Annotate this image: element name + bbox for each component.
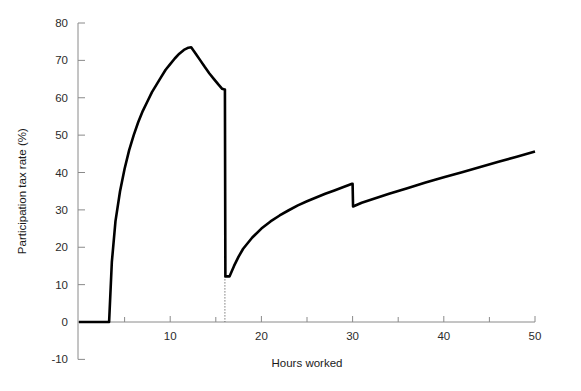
- y-tick-label: 50: [55, 129, 68, 141]
- x-tick-label: 30: [346, 330, 359, 342]
- y-tick-label: 0: [62, 316, 68, 328]
- x-axis-ticks: 1020304050: [125, 316, 542, 342]
- y-tick-label: -10: [51, 353, 68, 365]
- y-tick-label: 40: [55, 167, 68, 179]
- x-tick-label: 10: [164, 330, 177, 342]
- x-tick-label: 20: [255, 330, 268, 342]
- chart-container: -1001020304050607080 1020304050 Particip…: [0, 0, 581, 391]
- line-chart: -1001020304050607080 1020304050 Particip…: [0, 0, 581, 391]
- y-tick-label: 20: [55, 241, 68, 253]
- participation-tax-rate-line: [79, 47, 535, 322]
- y-tick-label: 80: [55, 17, 68, 29]
- y-tick-label: 30: [55, 204, 68, 216]
- axes-layer: -1001020304050607080 1020304050: [51, 17, 541, 365]
- x-tick-label: 40: [437, 330, 450, 342]
- y-tick-label: 60: [55, 92, 68, 104]
- y-tick-label: 70: [55, 54, 68, 66]
- x-tick-label: 50: [529, 330, 542, 342]
- y-axis-ticks: -1001020304050607080: [51, 17, 85, 365]
- x-axis-title: Hours worked: [272, 357, 343, 369]
- y-tick-label: 10: [55, 279, 68, 291]
- y-axis-title: Participation tax rate (%): [16, 128, 28, 254]
- series-layer: [79, 47, 535, 322]
